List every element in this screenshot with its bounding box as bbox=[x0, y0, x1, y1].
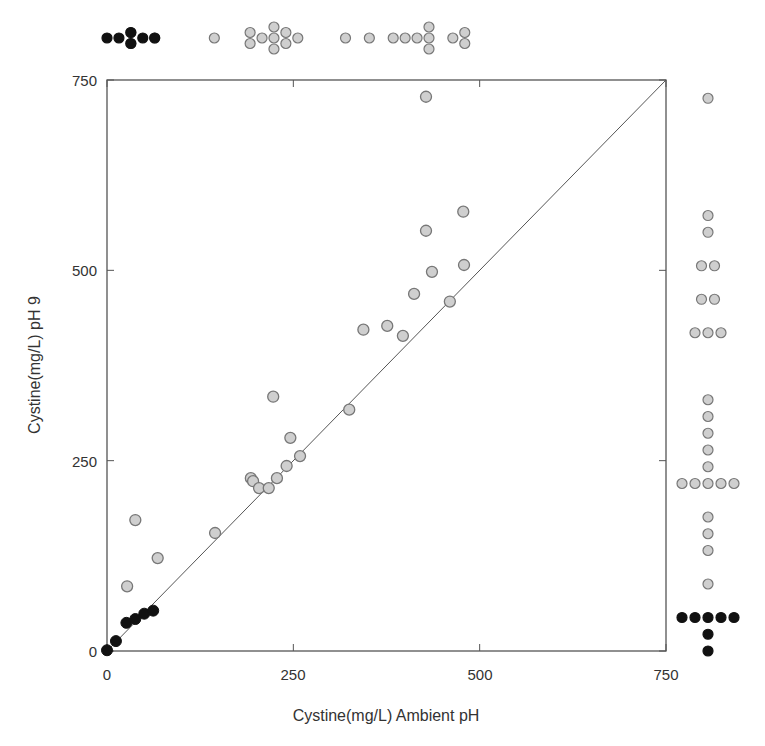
x-tick-750: 750 bbox=[653, 666, 678, 683]
gray-point bbox=[358, 324, 369, 335]
gray-point bbox=[409, 288, 420, 299]
marginal-dot bbox=[293, 33, 303, 43]
gray-point bbox=[344, 404, 355, 415]
marginal-dot bbox=[460, 39, 470, 49]
gray-point bbox=[382, 320, 393, 331]
marginal-dot bbox=[245, 28, 255, 38]
gray-point bbox=[210, 527, 221, 538]
gray-point bbox=[444, 296, 455, 307]
marginal-dot bbox=[716, 479, 726, 489]
marginal-dot bbox=[703, 512, 713, 522]
gray-point bbox=[268, 391, 279, 402]
marginal-dot bbox=[281, 39, 291, 49]
marginal-dot bbox=[703, 428, 713, 438]
gray-point bbox=[152, 553, 163, 564]
marginal-dot bbox=[269, 22, 279, 32]
marginal-dot bbox=[716, 328, 726, 338]
marginal-dot bbox=[138, 33, 148, 43]
scatter-chart: 0 250 500 750 0 250 500 750 Cystine(mg/L… bbox=[0, 0, 765, 746]
marginal-dot bbox=[703, 445, 713, 455]
marginal-dot bbox=[126, 28, 136, 38]
marginal-dot bbox=[703, 412, 713, 422]
gray-point bbox=[421, 91, 432, 102]
marginal-dot bbox=[703, 579, 713, 589]
black-point bbox=[110, 636, 121, 647]
marginal-dot bbox=[703, 546, 713, 556]
marginal-dot bbox=[703, 646, 713, 656]
gray-point bbox=[459, 260, 470, 271]
marginal-dot bbox=[209, 33, 219, 43]
marginal-dot bbox=[690, 479, 700, 489]
marginal-dot bbox=[245, 39, 255, 49]
x-tick-0: 0 bbox=[103, 666, 111, 683]
marginal-dot bbox=[703, 613, 713, 623]
marginal-dot bbox=[281, 28, 291, 38]
marginal-dot bbox=[424, 33, 434, 43]
marginal-dot bbox=[400, 33, 410, 43]
marginal-dot bbox=[703, 395, 713, 405]
marginal-dot bbox=[412, 33, 422, 43]
marginal-dot bbox=[677, 613, 687, 623]
gray-point bbox=[271, 473, 282, 484]
x-axis-title: Cystine(mg/L) Ambient pH bbox=[293, 707, 480, 724]
marginal-dot bbox=[126, 39, 136, 49]
marginal-dot bbox=[677, 479, 687, 489]
black-point bbox=[102, 645, 113, 656]
marginal-dot bbox=[697, 294, 707, 304]
gray-point bbox=[285, 432, 296, 443]
top-marginal-dotplot bbox=[102, 22, 470, 54]
marginal-dot bbox=[690, 613, 700, 623]
gray-point bbox=[130, 515, 141, 526]
marginal-dot bbox=[703, 479, 713, 489]
marginal-dot bbox=[424, 44, 434, 54]
marginal-dot bbox=[703, 227, 713, 237]
marginal-dot bbox=[388, 33, 398, 43]
marginal-dot bbox=[114, 33, 124, 43]
marginal-dot bbox=[697, 261, 707, 271]
marginal-dot bbox=[364, 33, 374, 43]
marginal-dot bbox=[690, 328, 700, 338]
black-point bbox=[148, 605, 159, 616]
gray-point bbox=[421, 225, 432, 236]
gray-point bbox=[397, 330, 408, 341]
y-tick-0: 0 bbox=[89, 643, 97, 660]
marginal-dot bbox=[703, 529, 713, 539]
marginal-dot bbox=[150, 33, 160, 43]
gray-point bbox=[122, 581, 133, 592]
y-axis-title: Cystine(mg/L) pH 9 bbox=[26, 296, 43, 434]
marginal-dot bbox=[710, 261, 720, 271]
marginal-dot bbox=[716, 613, 726, 623]
marginal-dot bbox=[424, 22, 434, 32]
x-tick-250: 250 bbox=[280, 666, 305, 683]
marginal-dot bbox=[703, 462, 713, 472]
marginal-dot bbox=[703, 93, 713, 103]
gray-point bbox=[263, 483, 274, 494]
gray-point bbox=[426, 266, 437, 277]
gray-point bbox=[281, 460, 292, 471]
x-tick-500: 500 bbox=[467, 666, 492, 683]
marginal-dot bbox=[102, 33, 112, 43]
y-tick-500: 500 bbox=[72, 262, 97, 279]
gray-point bbox=[295, 451, 306, 462]
marginal-dot bbox=[448, 33, 458, 43]
identity-line bbox=[107, 80, 666, 651]
right-marginal-dotplot bbox=[677, 93, 739, 656]
marginal-dot bbox=[703, 328, 713, 338]
marginal-dot bbox=[257, 33, 267, 43]
y-tick-750: 750 bbox=[72, 72, 97, 89]
marginal-dot bbox=[710, 294, 720, 304]
marginal-dot bbox=[460, 28, 470, 38]
marginal-dot bbox=[729, 479, 739, 489]
marginal-dot bbox=[269, 44, 279, 54]
gray-point bbox=[458, 206, 469, 217]
marginal-dot bbox=[729, 613, 739, 623]
marginal-dot bbox=[703, 211, 713, 221]
marginal-dot bbox=[703, 629, 713, 639]
marginal-dot bbox=[341, 33, 351, 43]
y-tick-250: 250 bbox=[72, 453, 97, 470]
marginal-dot bbox=[269, 33, 279, 43]
data-points bbox=[102, 91, 470, 655]
